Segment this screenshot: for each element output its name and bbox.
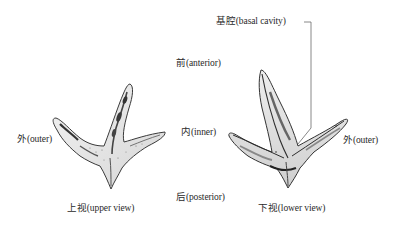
anterior-label: 前(anterior) bbox=[176, 58, 221, 69]
inner-label: 内(inner) bbox=[181, 127, 216, 138]
outer-right-label: 外(outer) bbox=[343, 135, 378, 146]
upper-view-caption: 上视(upper view) bbox=[67, 203, 134, 214]
upper-view-specimen bbox=[53, 84, 165, 189]
posterior-label: 后(posterior) bbox=[176, 192, 225, 203]
basal-cavity-leader-line bbox=[298, 22, 311, 144]
basal-cavity-label: 基腔(basal cavity) bbox=[216, 16, 286, 27]
outer-left-label: 外(outer) bbox=[17, 134, 52, 145]
lower-view-specimen bbox=[229, 70, 348, 188]
lower-view-caption: 下视(lower view) bbox=[258, 203, 325, 214]
